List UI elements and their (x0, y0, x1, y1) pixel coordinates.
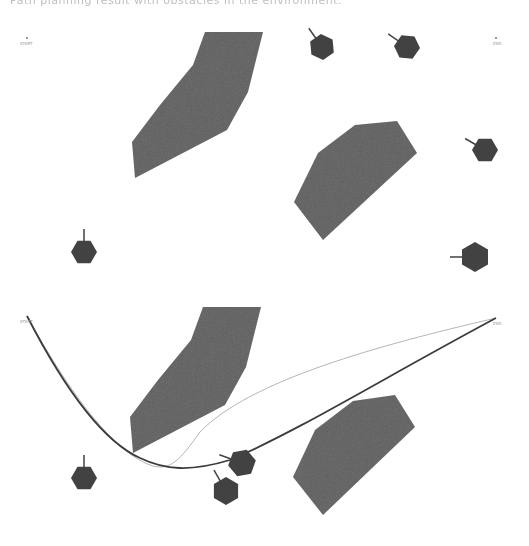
environment-panel: STARTEND (20, 28, 502, 272)
obstacle-polygon (132, 32, 263, 178)
planned-path (27, 316, 496, 468)
start-marker (26, 37, 28, 39)
agent-hexagon (71, 241, 97, 264)
end-label: END (493, 321, 502, 326)
obstacle-polygon (293, 395, 415, 515)
agent-hexagon (71, 467, 97, 490)
alternative-path (27, 316, 496, 467)
planned-paths-panel: STARTEND (20, 307, 502, 515)
end-marker (495, 37, 497, 39)
agent-hexagon (462, 242, 488, 272)
agent-hexagon (228, 450, 256, 476)
agent-hexagon (394, 35, 420, 59)
agent-hexagon (472, 139, 498, 162)
start-label: START (20, 319, 33, 324)
agent-hexagon (310, 34, 334, 60)
start-label: START (20, 41, 33, 46)
agent-hexagon (214, 477, 238, 505)
obstacle-polygon (294, 121, 417, 240)
end-label: END (493, 41, 502, 46)
obstacle-polygon (130, 307, 261, 453)
path-planning-figure: STARTEND STARTEND (0, 0, 529, 546)
